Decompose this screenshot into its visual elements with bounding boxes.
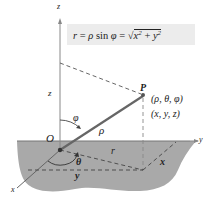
formula-plus: + xyxy=(142,30,153,41)
formula-text: r = ρ sin φ = √x2 + y2 xyxy=(73,29,161,41)
y-length-label: y xyxy=(75,171,79,181)
spherical-coords-label: (ρ, θ, φ) xyxy=(151,94,183,104)
y-axis-label: y xyxy=(199,136,203,144)
formula-y-exponent: 2 xyxy=(158,29,162,37)
rho-label: ρ xyxy=(99,125,104,136)
formula-equals-2: = xyxy=(117,30,128,41)
rect-coords-label: (x, y, z) xyxy=(151,109,180,119)
origin-label: O xyxy=(46,133,54,144)
xy-plane xyxy=(17,141,196,191)
theta-label: θ xyxy=(76,157,81,167)
z-axis-arrow-icon xyxy=(58,18,62,24)
z-height-label: z xyxy=(48,89,52,98)
point-p xyxy=(141,93,145,97)
z-axis-label: z xyxy=(57,3,60,11)
radicand: x2 + y2 xyxy=(134,29,162,41)
x-length-label: x xyxy=(160,157,165,167)
phi-label: φ xyxy=(73,113,79,123)
origin-point xyxy=(58,148,62,152)
formula-equals-1: = xyxy=(77,30,88,41)
formula-sin: sin xyxy=(93,30,111,41)
x-axis-label: x xyxy=(11,186,15,194)
point-label: P xyxy=(140,83,146,93)
r-label: r xyxy=(111,146,115,156)
z-projection-dashed xyxy=(60,63,141,94)
spherical-coordinates-diagram: r = ρ sin φ = √x2 + y2 z y x z O P (ρ, θ… xyxy=(0,0,206,199)
